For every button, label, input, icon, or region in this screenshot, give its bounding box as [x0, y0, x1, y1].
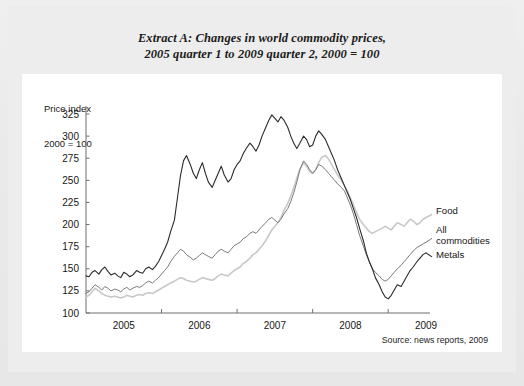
- figure-title: Extract A: Changes in world commodity pr…: [8, 30, 516, 62]
- y-tick-label: 200: [62, 219, 79, 230]
- series-label-food: Food: [436, 205, 458, 216]
- y-tick-label: 300: [62, 131, 79, 142]
- figure-sheet: Extract A: Changes in world commodity pr…: [8, 6, 516, 372]
- y-tick-label: 250: [62, 175, 79, 186]
- figure-title-line2: 2005 quarter 1 to 2009 quarter 2, 2000 =…: [8, 46, 516, 62]
- source-note: Source: news reports, 2009: [382, 335, 488, 345]
- x-tick-label: 2007: [264, 320, 287, 331]
- x-tick-label: 2005: [113, 320, 136, 331]
- series-labels-group: FoodAllcommoditiesMetals: [426, 205, 490, 259]
- series-leader-line: [426, 238, 432, 242]
- x-tick-label: 2008: [339, 320, 362, 331]
- y-tick-label: 225: [62, 197, 79, 208]
- series-label-all-commodities-line2: commodities: [436, 235, 490, 246]
- y-axis: 100125150175200225250275300325: [62, 106, 89, 319]
- page-background: Extract A: Changes in world commodity pr…: [0, 0, 524, 386]
- line-chart: 100125150175200225250275300325 200520062…: [22, 74, 502, 352]
- y-tick-label: 325: [62, 109, 79, 120]
- y-tick-label: 100: [62, 308, 79, 319]
- x-tick-label: 2009: [415, 320, 438, 331]
- series-leader-line: [426, 253, 432, 257]
- y-tick-label: 275: [62, 153, 79, 164]
- chart-panel: Price index 2000 = 100 10012515017520022…: [22, 74, 502, 352]
- series-line-all-commodities: [86, 161, 426, 294]
- x-axis: 20052006200720082009: [86, 309, 438, 331]
- series-leader-line: [426, 214, 432, 217]
- y-tick-label: 150: [62, 263, 79, 274]
- chart-series-group: [86, 115, 426, 299]
- y-tick-label: 125: [62, 285, 79, 296]
- figure-title-line1: Extract A: Changes in world commodity pr…: [138, 31, 386, 45]
- series-label-metals: Metals: [436, 249, 464, 260]
- series-label-all-commodities-line1: All: [436, 224, 447, 235]
- x-tick-label: 2006: [188, 320, 211, 331]
- y-tick-label: 175: [62, 241, 79, 252]
